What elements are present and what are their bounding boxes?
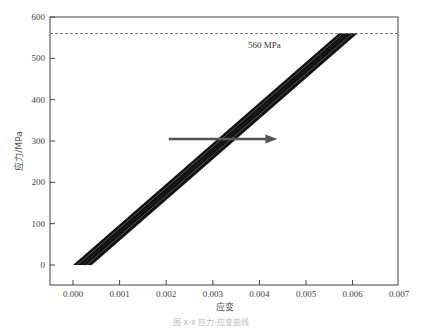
stress-strain-chart: 0100200300400500600 0.0000.0010.0020.003… — [0, 0, 422, 330]
y-tick-label: 0 — [41, 260, 46, 270]
y-tick-label: 100 — [32, 219, 46, 229]
x-tick-label: 0.000 — [63, 289, 84, 299]
series-line — [82, 34, 348, 265]
y-axis: 0100200300400500600 — [32, 12, 56, 270]
series-line — [87, 34, 353, 265]
y-tick-label: 200 — [32, 177, 46, 187]
series-line — [91, 34, 357, 265]
x-tick-label: 0.003 — [203, 289, 224, 299]
yield-strength-label: 560 MPa — [248, 40, 281, 50]
stress-strain-band — [73, 34, 357, 265]
x-tick-label: 0.004 — [249, 289, 270, 299]
series-line — [77, 34, 343, 265]
y-tick-label: 300 — [32, 136, 46, 146]
y-tick-label: 400 — [32, 95, 46, 105]
y-tick-label: 600 — [32, 12, 46, 22]
figure-caption: 图 x-x 应力-应变曲线 — [0, 316, 422, 327]
x-tick-label: 0.001 — [109, 289, 129, 299]
x-axis: 0.0000.0010.0020.0030.0040.0050.0060.007 — [63, 280, 410, 299]
x-tick-label: 0.006 — [342, 289, 363, 299]
y-tick-label: 500 — [32, 53, 46, 63]
x-axis-title: 应变 — [216, 301, 234, 312]
x-tick-label: 0.005 — [296, 289, 317, 299]
x-tick-label: 0.007 — [389, 289, 410, 299]
y-axis-title: 应力/MPa — [13, 131, 24, 170]
x-tick-label: 0.002 — [156, 289, 176, 299]
